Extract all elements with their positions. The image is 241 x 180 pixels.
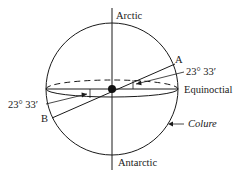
label-angle-left: 23° 33′ [8,99,38,110]
label-antarctic: Antarctic [118,157,157,168]
label-point-b: B [41,113,48,124]
celestial-sphere-diagram: Arctic Antarctic A B 23° 33′ 23° 33′ Equ… [0,0,241,180]
label-equinoctial: Equinoctial [184,84,232,95]
label-colure: Colure [188,118,217,129]
label-point-a: A [175,54,183,65]
earth-center-dot [108,85,116,93]
angle-leader-left [46,94,87,104]
label-arctic: Arctic [116,10,143,21]
label-angle-right: 23° 33′ [186,66,216,77]
